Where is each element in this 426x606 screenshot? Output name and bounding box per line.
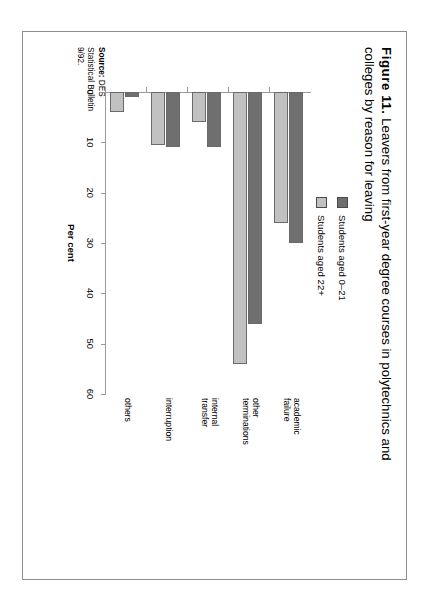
value-tick-label: 20 — [85, 187, 96, 197]
bar-academic-failure-series0 — [289, 92, 303, 243]
bar-interruption-series0 — [166, 92, 180, 147]
bar-internal-transfer-series1 — [192, 92, 206, 122]
legend-label-0: Students aged 0–21 — [338, 215, 349, 301]
source-label: Source: — [97, 47, 106, 77]
value-tick — [101, 142, 106, 143]
category-label-internal-transfer: internaltransfer — [200, 398, 219, 427]
bar-interruption-series1 — [151, 92, 165, 145]
bar-academic-failure-series1 — [274, 92, 288, 223]
bar-other-terminations-series0 — [248, 92, 262, 324]
value-tick — [101, 293, 106, 294]
value-tick — [101, 243, 106, 244]
value-tick — [101, 92, 106, 93]
source-issue: 9/92. — [76, 47, 85, 65]
legend-swatch-icon-0 — [338, 197, 349, 208]
value-tick — [101, 344, 106, 345]
category-tick — [228, 87, 229, 92]
chart-plot-area: 0102030405060 academicfailureothertermin… — [106, 92, 311, 452]
legend-item-0: Students aged 0–21 — [336, 197, 350, 301]
category-tick — [105, 87, 106, 92]
rotated-figure-container: Figure 11. Leavers from first-year degre… — [23, 32, 406, 579]
value-tick-label: 40 — [85, 288, 96, 298]
legend-item-1: Students aged 22+ — [315, 197, 329, 301]
page-title: Figure 11. Leavers from first-year degre… — [361, 47, 394, 477]
value-tick-label: 50 — [85, 338, 96, 348]
legend: Students aged 0–21 Students aged 22+ — [308, 197, 350, 301]
category-label-interruption: interruption — [163, 398, 173, 441]
category-tick — [146, 87, 147, 92]
source-publication: Statistical Bulletin — [87, 47, 96, 111]
category-tick — [269, 87, 270, 92]
category-label-others: others — [122, 398, 132, 422]
legend-label-1: Students aged 22+ — [317, 215, 328, 296]
value-tick-label: 0 — [85, 89, 96, 94]
value-tick — [101, 394, 106, 395]
figure-page: Figure 11. Leavers from first-year degre… — [0, 0, 426, 606]
bar-others-series1 — [110, 92, 124, 112]
value-tick-label: 10 — [85, 137, 96, 147]
category-label-academic-failure: academicfailure — [282, 398, 301, 435]
legend-swatch-icon-1 — [317, 197, 328, 208]
value-tick-label: 60 — [85, 389, 96, 399]
value-tick — [101, 193, 106, 194]
x-axis-title: Per cent — [66, 224, 77, 262]
figure-number: Figure 11. — [379, 47, 394, 115]
category-tick — [187, 87, 188, 92]
bar-other-terminations-series1 — [233, 92, 247, 364]
category-label-other-terminations: otherterminations — [241, 398, 260, 445]
value-tick-label: 30 — [85, 238, 96, 248]
bar-internal-transfer-series0 — [207, 92, 221, 147]
bar-others-series0 — [125, 92, 139, 97]
